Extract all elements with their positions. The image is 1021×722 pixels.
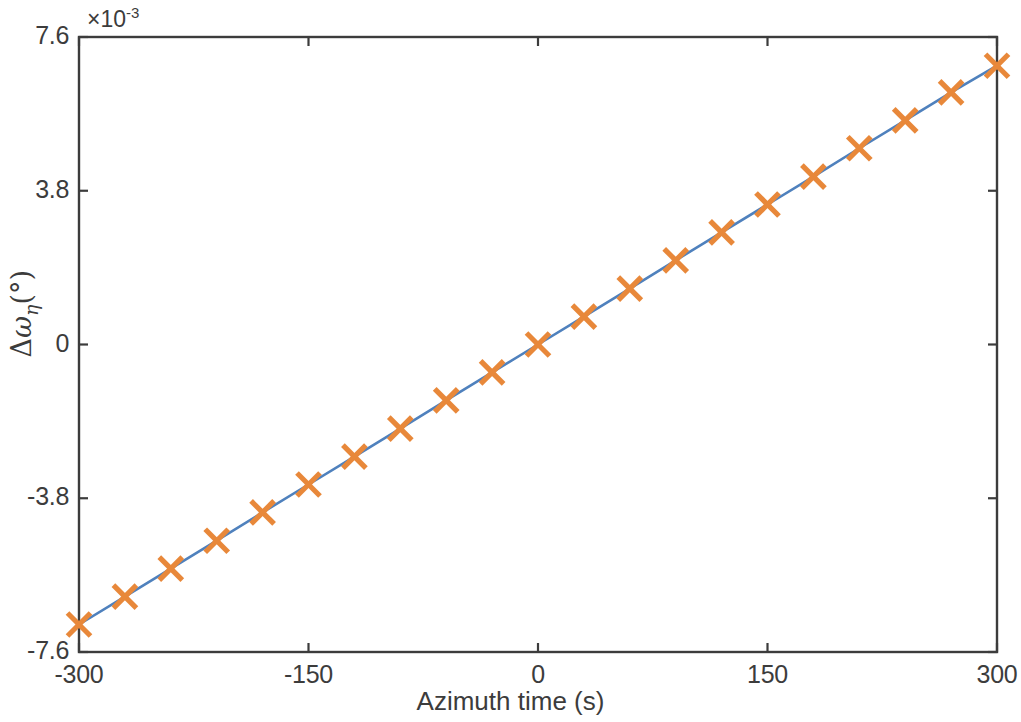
x-tick-label: 0 — [478, 660, 598, 689]
y-axis-label-units: (°) — [6, 270, 37, 305]
x-tick-label: 300 — [937, 660, 1021, 689]
y-tick-label: -3.8 — [27, 482, 69, 511]
figure-canvas: ×10-3 -7.6 -3.8 0 3.8 7.6 -300 -150 0 15… — [0, 0, 1021, 722]
y-axis-label-eta: η — [20, 305, 42, 316]
y-axis-label-delta: Δ — [6, 338, 37, 358]
y-axis-exponent-label: ×10-3 — [87, 4, 139, 33]
x-tick-label: 150 — [708, 660, 828, 689]
x-tick-label: -150 — [249, 660, 369, 689]
x-tick-label: -300 — [19, 660, 139, 689]
y-axis-label: Δωη(°) — [6, 194, 41, 434]
y-tick-label: 0 — [55, 329, 69, 358]
y-tick-label: 7.6 — [35, 21, 69, 50]
x-axis-label: Azimuth time (s) — [0, 686, 1021, 717]
y-axis-label-omega: ω — [6, 316, 37, 338]
plot-axes — [0, 0, 1021, 722]
data-series — [68, 54, 1009, 636]
